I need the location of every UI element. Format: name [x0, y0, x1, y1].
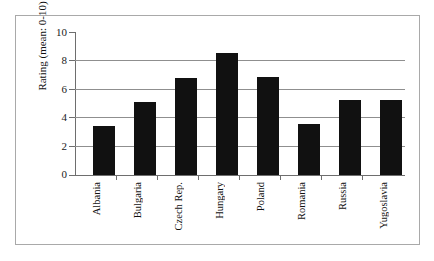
x-tick-label-albania: Albania — [90, 182, 104, 215]
y-tick-label: 8 — [37, 55, 67, 66]
bar-yugoslavia — [380, 100, 402, 175]
x-tick-label-hungary: Hungary — [213, 182, 227, 219]
x-tick-mark — [321, 175, 322, 180]
gridline-8 — [75, 60, 405, 61]
x-tick-label-czech-rep: Czech Rep. — [172, 182, 186, 230]
chart-figure: Rating (mean: 0-10) 10 8 6 4 2 0 Albania… — [0, 0, 434, 261]
bar-bulgaria — [134, 102, 156, 175]
bar-hungary — [216, 53, 238, 175]
x-tick-mark — [362, 175, 363, 180]
x-tick-label-russia: Russia — [336, 182, 350, 210]
y-tick-label: 6 — [37, 84, 67, 95]
x-tick-mark — [116, 175, 117, 180]
x-tick-mark — [280, 175, 281, 180]
x-tick-label-bulgaria: Bulgaria — [131, 182, 145, 218]
gridline-6 — [75, 89, 405, 90]
bar-poland — [257, 77, 279, 175]
x-tick-label-yugoslavia: Yugoslavia — [377, 182, 391, 229]
y-tick-label: 4 — [37, 112, 67, 123]
bar-russia — [339, 100, 361, 175]
bar-romania — [298, 124, 320, 175]
y-axis-tick-labels: 10 8 6 4 2 0 — [34, 0, 67, 261]
bar-czech-rep — [175, 78, 197, 175]
x-tick-mark — [198, 175, 199, 180]
plot-area — [75, 32, 405, 175]
x-tick-label-poland: Poland — [254, 182, 268, 211]
x-tick-label-romania: Romania — [295, 182, 309, 220]
x-tick-mark — [239, 175, 240, 180]
bar-albania — [93, 126, 115, 175]
y-tick-label: 2 — [37, 141, 67, 152]
x-axis-line — [75, 175, 405, 176]
y-tick-label: 0 — [37, 169, 67, 180]
y-tick-label: 10 — [37, 27, 67, 38]
x-tick-mark — [157, 175, 158, 180]
